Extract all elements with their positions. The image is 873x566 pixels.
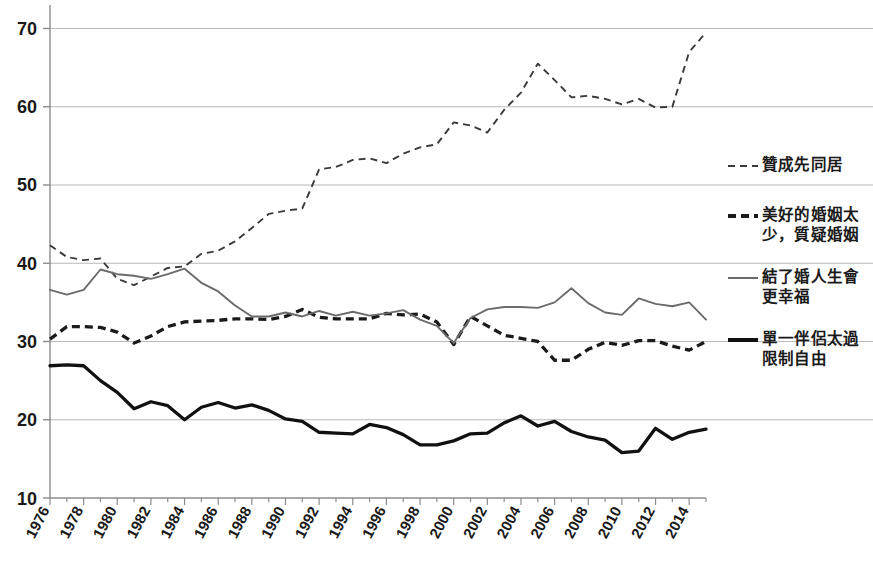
svg-text:2000: 2000	[426, 503, 457, 540]
series-line-1	[50, 309, 706, 360]
svg-text:1986: 1986	[190, 503, 221, 540]
x-axis-labels: 1976197819801982198419861988199019921994…	[22, 503, 692, 541]
legend-label-2: 結了婚人生會 更幸福	[762, 267, 859, 307]
svg-text:1978: 1978	[56, 503, 87, 540]
svg-text:40: 40	[17, 254, 37, 274]
y-axis-labels: 70605040302010	[17, 19, 37, 509]
svg-text:2014: 2014	[661, 503, 692, 541]
legend-label-1: 美好的婚姻太 少，質疑婚姻	[762, 205, 859, 245]
svg-text:1988: 1988	[224, 503, 255, 540]
svg-text:50: 50	[17, 175, 37, 195]
legend-swatch-0	[728, 165, 758, 167]
svg-text:20: 20	[17, 410, 37, 430]
x-axis-ticks	[50, 498, 706, 505]
svg-text:2004: 2004	[493, 503, 524, 541]
legend-label-0: 贊成先同居	[762, 155, 843, 175]
svg-text:1980: 1980	[89, 503, 120, 540]
series-line-3	[50, 365, 706, 453]
legend-label-3: 單一伴侶太過 限制自由	[762, 329, 859, 369]
svg-text:1990: 1990	[257, 503, 288, 540]
svg-text:2008: 2008	[560, 503, 591, 540]
svg-text:1994: 1994	[325, 503, 356, 541]
legend-swatch-1	[728, 214, 758, 217]
legend-swatch-3	[728, 338, 758, 341]
svg-text:60: 60	[17, 97, 37, 117]
svg-text:70: 70	[17, 19, 37, 39]
legend-swatch-2	[728, 277, 758, 279]
svg-text:2006: 2006	[527, 503, 558, 540]
svg-text:2002: 2002	[459, 503, 490, 540]
svg-text:2010: 2010	[594, 503, 625, 540]
line-chart: 70605040302010 1976197819801982198419861…	[0, 0, 873, 566]
series-line-0	[50, 32, 706, 285]
svg-text:2012: 2012	[628, 503, 659, 540]
svg-text:1996: 1996	[358, 503, 389, 540]
svg-text:1982: 1982	[123, 503, 154, 540]
svg-text:10: 10	[17, 489, 37, 509]
svg-text:1992: 1992	[291, 503, 322, 540]
svg-text:1976: 1976	[22, 503, 53, 540]
gridlines	[50, 28, 873, 419]
series-line-2	[50, 269, 706, 343]
svg-text:1984: 1984	[157, 503, 188, 541]
svg-text:1998: 1998	[392, 503, 423, 540]
svg-text:30: 30	[17, 332, 37, 352]
chart-plot-area: 70605040302010 1976197819801982198419861…	[0, 0, 873, 566]
series-lines	[50, 32, 706, 452]
